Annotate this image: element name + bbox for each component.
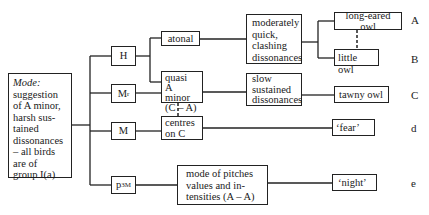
- mode-line: – all birds: [13, 146, 67, 158]
- node-mode-of-pitches: mode of pitches values and in- tensities…: [177, 165, 268, 205]
- mode-line: of A minor,: [13, 100, 67, 112]
- mode-line: dissonances: [13, 135, 67, 147]
- node-atonal-label: atonal: [168, 33, 194, 45]
- leaf-tawny-owl: tawny owl: [334, 86, 389, 103]
- slow-line: dissonances: [252, 95, 296, 106]
- leaf-code-b: B: [411, 53, 418, 65]
- mode-pitches-line: values and in-: [186, 180, 259, 192]
- node-h-label: H: [120, 50, 128, 62]
- leaf-label: ‘night’: [338, 177, 367, 188]
- mode-line: suggestion: [13, 89, 67, 101]
- mode-line: tained: [13, 123, 67, 135]
- node-p3m: p3M: [111, 176, 136, 194]
- node-mr-base: M: [118, 88, 127, 100]
- node-mr: Mr: [111, 84, 136, 103]
- leaf-code-d: d: [411, 122, 417, 134]
- node-m: M: [111, 122, 136, 140]
- node-atonal: atonal: [161, 31, 200, 46]
- node-h: H: [111, 46, 136, 66]
- node-m-label: M: [119, 125, 128, 137]
- leaf-code-e: e: [411, 177, 416, 189]
- node-quasi-a-minor: quasi A minor (C – A): [161, 71, 203, 103]
- node-slow-sustained: slow sustained dissonances: [246, 73, 302, 106]
- quasi-line: A minor: [165, 83, 199, 103]
- mode-heading: Mode:: [13, 77, 67, 89]
- mode-line: group I(a): [13, 169, 67, 181]
- mode-line: harsh sus-: [13, 112, 67, 124]
- leaf-long-eared-owl: long-eared owl: [334, 12, 402, 30]
- slow-line: slow: [252, 74, 296, 85]
- moderately-line: moderately: [252, 17, 296, 29]
- leaf-fear: ‘fear’: [332, 119, 375, 136]
- leaf-label: long-eared owl: [338, 10, 398, 33]
- mode-pitches-line: tensities (A – A): [186, 191, 259, 203]
- quasi-line: (C – A): [165, 103, 199, 113]
- leaf-label: tawny owl: [339, 89, 383, 100]
- node-centres-on-c: centres on C: [161, 116, 203, 140]
- centres-line: centres: [165, 118, 199, 129]
- moderately-line: clashing: [252, 40, 296, 52]
- moderately-line: dissonances: [252, 52, 296, 64]
- leaf-code-a: A: [411, 14, 419, 26]
- leaf-code-c: C: [411, 89, 418, 101]
- mode-line: are of: [13, 158, 67, 170]
- mode-root-box: Mode: suggestion of A minor, harsh sus- …: [8, 73, 72, 178]
- node-moderately-quick: moderately quick, clashing dissonances: [246, 14, 302, 64]
- moderately-line: quick,: [252, 29, 296, 41]
- leaf-little-owl: little owl: [334, 49, 379, 66]
- leaf-label: ‘fear’: [336, 122, 360, 133]
- centres-line: on C: [165, 129, 199, 140]
- leaf-night: ‘night’: [332, 174, 377, 191]
- mode-pitches-line: mode of pitches: [186, 168, 259, 180]
